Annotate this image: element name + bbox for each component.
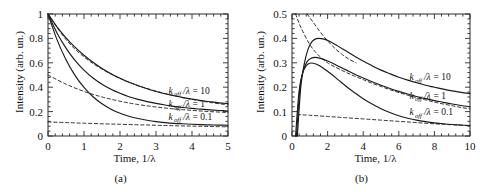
svg-text:k: k: [169, 86, 174, 96]
svg-text:= 10: = 10: [193, 86, 210, 96]
svg-text:1: 1: [38, 8, 44, 20]
svg-text:0.4: 0.4: [273, 32, 287, 44]
panel-b: Intensity (arb. un.) 024681000.10.20.30.…: [241, 0, 482, 192]
panel-a: Intensity (arb. un.) 01234500.20.40.60.8…: [0, 0, 241, 192]
curve-annotation: koff/λ= 0.1: [169, 112, 213, 123]
svg-text:0.5: 0.5: [273, 8, 287, 20]
svg-text:1: 1: [81, 140, 87, 152]
svg-text:off: off: [415, 95, 423, 102]
panel-a-caption: (a): [0, 172, 241, 184]
curve-annotation: koff/λ= 10: [169, 86, 210, 97]
svg-text:2: 2: [117, 140, 123, 152]
curve-annotation: koff/λ= 1: [169, 99, 206, 110]
svg-text:0.2: 0.2: [273, 81, 287, 93]
svg-text:0: 0: [38, 130, 44, 142]
svg-text:/λ: /λ: [182, 112, 190, 122]
panel-b-caption: (b): [241, 172, 482, 184]
svg-text:k: k: [169, 112, 174, 122]
curve-annotation: koff/λ= 1: [409, 91, 446, 102]
curve: [297, 38, 470, 136]
svg-text:off: off: [174, 116, 182, 123]
svg-text:/λ: /λ: [423, 107, 431, 117]
svg-text:4: 4: [189, 140, 195, 152]
svg-text:k: k: [169, 99, 174, 109]
svg-text:/λ: /λ: [182, 99, 190, 109]
svg-text:2: 2: [325, 140, 331, 152]
svg-text:= 1: = 1: [193, 99, 206, 109]
panel-a-x-axis-label: Time, 1/λ: [0, 152, 241, 164]
panel-b-x-axis-label: Time, 1/λ: [241, 152, 482, 164]
svg-text:8: 8: [432, 140, 438, 152]
svg-text:/λ: /λ: [423, 91, 431, 101]
svg-text:3: 3: [153, 140, 159, 152]
svg-text:4: 4: [360, 140, 366, 152]
svg-text:10: 10: [465, 140, 477, 152]
svg-text:/λ: /λ: [182, 86, 190, 96]
svg-text:off: off: [174, 90, 182, 97]
svg-text:k: k: [409, 107, 414, 117]
svg-text:off: off: [174, 104, 182, 111]
svg-text:0.1: 0.1: [273, 106, 287, 118]
svg-text:= 0.1: = 0.1: [433, 107, 453, 117]
svg-text:= 0.1: = 0.1: [193, 112, 213, 122]
svg-text:0: 0: [289, 140, 295, 152]
svg-text:= 10: = 10: [433, 72, 450, 82]
svg-text:0: 0: [282, 130, 288, 142]
svg-text:= 1: = 1: [433, 91, 446, 101]
svg-text:/λ: /λ: [423, 72, 431, 82]
figure-container: Intensity (arb. un.) 01234500.20.40.60.8…: [0, 0, 482, 192]
curve-annotation: koff/λ= 0.1: [409, 107, 453, 118]
curve: [307, 14, 356, 63]
svg-text:0.8: 0.8: [29, 32, 43, 44]
svg-text:off: off: [415, 112, 423, 119]
svg-text:off: off: [415, 77, 423, 84]
svg-text:k: k: [409, 72, 414, 82]
svg-text:0.6: 0.6: [29, 57, 43, 69]
svg-text:0.3: 0.3: [273, 57, 287, 69]
svg-text:0: 0: [45, 140, 51, 152]
svg-text:6: 6: [396, 140, 402, 152]
curve: [48, 14, 228, 111]
svg-text:5: 5: [225, 140, 231, 152]
svg-text:0.4: 0.4: [29, 81, 43, 93]
curve-annotation: koff/λ= 10: [409, 72, 450, 83]
svg-text:0.2: 0.2: [29, 106, 43, 118]
